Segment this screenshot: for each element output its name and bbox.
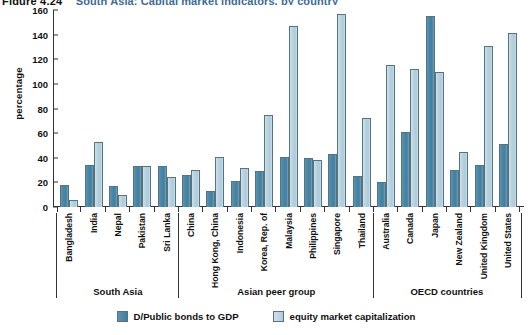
x-axis-label-cell: Malaysia [276,213,300,285]
y-axis-tick-label: 80 [37,103,48,114]
legend-label: equity market capitalization [290,311,416,322]
bar [85,165,94,207]
bar-group [325,10,349,207]
bar [191,170,200,207]
bar [158,166,167,207]
bar [264,115,273,207]
x-axis-category-label: Korea, Rep. of [259,213,269,271]
bar [215,157,224,207]
x-axis-label-cell: Thailand [350,213,374,285]
x-axis-category-label: China [186,213,196,237]
bar-group [179,10,203,207]
y-axis-tick-label: 40 [37,152,48,163]
legend-label: D/Public bonds to GDP [134,311,239,322]
x-axis-category-label: Japan [430,213,440,238]
x-axis-category-label: Pakistan [137,213,147,248]
bar [426,16,435,207]
x-axis-label-cell: Korea, Rep. of [252,213,276,285]
y-axis-tick-label: 140 [32,29,48,40]
bar [142,166,151,207]
group-labels: South AsiaAsian peer groupOECD countries [53,286,524,300]
y-axis-tick-label: 0 [43,202,48,213]
y-axis-tick-labels: 020406080100120140160 [20,10,48,207]
x-axis-category-label: Australia [381,213,391,250]
legend-item[interactable]: D/Public bonds to GDP [117,311,239,322]
legend-swatch [273,311,284,322]
x-axis-category-label: Singapore [332,213,342,255]
bar [508,33,517,207]
bar-group [447,10,471,207]
figure-header: Figure 4.24 South Asia: Capital market i… [0,0,532,5]
x-axis-label-cell: Indonesia [228,213,252,285]
bar [109,186,118,207]
legend-item[interactable]: equity market capitalization [273,311,416,322]
y-axis-tick-label: 60 [37,128,48,139]
x-axis-category-label: Thailand [357,213,367,248]
group-label: South Asia [93,286,142,297]
bar [459,152,468,207]
bar [280,157,289,207]
x-axis-label-cell: United States [496,213,520,285]
bar-group [301,10,325,207]
x-axis-label-cell: Pakistan [130,213,154,285]
x-axis-label-cell: Singapore [325,213,349,285]
bar [69,200,78,207]
bar [255,171,264,207]
x-axis-label-cell: Sri Lanka [155,213,179,285]
y-axis-tick-label: 100 [32,78,48,89]
bar-group [57,10,81,207]
plot-area [53,10,524,207]
bar-group [228,10,252,207]
x-axis-label-cell: United Kingdom [471,213,495,285]
x-axis-category-label: Philippines [308,213,318,259]
bar [475,165,484,207]
bar [240,168,249,207]
x-axis-label-cell: Philippines [301,213,325,285]
x-axis-label-cell: Japan [423,213,447,285]
bar [231,181,240,207]
x-axis-label-cell: China [179,213,203,285]
bar [401,132,410,207]
legend-swatch [117,311,128,322]
x-axis-label-cell: Australia [374,213,398,285]
bar [337,14,346,207]
bar [60,185,69,207]
bar-group [423,10,447,207]
bar-group [130,10,154,207]
bar-group [374,10,398,207]
bar-group [106,10,130,207]
bar [167,177,176,207]
x-axis-category-label: Bangladesh [64,213,74,262]
y-axis-tick-label: 160 [32,5,48,16]
x-axis-label-cell: India [81,213,105,285]
x-axis-category-label: United States [503,213,513,268]
bar-group [276,10,300,207]
x-axis-label-cell: Nepal [106,213,130,285]
bar [328,154,337,207]
x-axis-category-label: United Kingdom [479,213,489,279]
bar [499,144,508,207]
x-axis-category-labels: BangladeshIndiaNepalPakistanSri LankaChi… [53,213,524,285]
x-axis-category-label: Nepal [113,213,123,236]
bar-group [155,10,179,207]
x-axis-category-label: Indonesia [235,213,245,253]
y-axis-tick-label: 20 [37,177,48,188]
bar [206,191,215,207]
x-axis-category-label: Sri Lanka [162,213,172,252]
bar-group [496,10,520,207]
bar-series-container [53,10,524,207]
figure-title: South Asia: Capital market indicators, b… [76,0,338,5]
bar [484,46,493,207]
bar-group [398,10,422,207]
bar-group [81,10,105,207]
capital-market-indicators-chart: Figure 4.24 South Asia: Capital market i… [0,0,532,335]
x-axis-category-label: India [89,213,99,233]
bar [362,118,371,207]
bar [377,182,386,207]
x-axis-category-label: Hong Kong, China [210,213,220,288]
x-axis-category-label: Malaysia [284,213,294,249]
x-axis-category-label: Canada [405,213,415,244]
bar [435,72,444,207]
chart-legend: D/Public bonds to GDPequity market capit… [0,311,532,322]
x-axis-label-cell: New Zealand [447,213,471,285]
